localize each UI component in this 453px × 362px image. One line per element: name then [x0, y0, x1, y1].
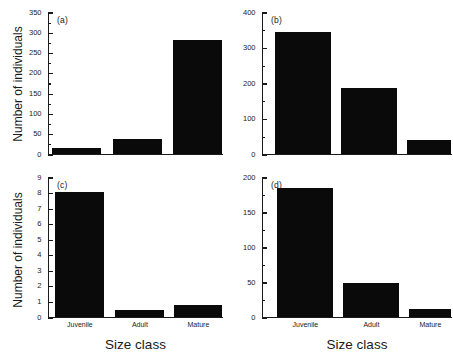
panel-b-bar-juvenile	[275, 32, 331, 153]
x-axis-title-right: Size class	[262, 337, 452, 352]
panel-b-bars	[263, 13, 452, 154]
panel-b-bar-adult	[341, 88, 397, 154]
panel-d-x-labels: Juvenile Adult Mature	[263, 318, 452, 332]
panel-d-bar-mature	[409, 309, 451, 317]
panel-d-bars	[263, 178, 452, 317]
panel-b: (b) 0 100 200 300 400	[262, 13, 452, 155]
panel-b-bar-mature	[407, 140, 451, 154]
panel-c-x-labels: Juvenile Adult Mature	[49, 318, 223, 332]
panel-c-bar-mature	[174, 305, 222, 317]
panel-c-xlabel-juvenile: Juvenile	[55, 321, 104, 328]
panel-c-xlabel-adult: Adult	[115, 321, 164, 328]
panel-d: (d) 0 50 100 150 200 Juvenile Adult Matu…	[262, 178, 452, 318]
panel-d-bar-juvenile	[277, 188, 333, 316]
panel-d-xlabel-adult: Adult	[343, 321, 399, 328]
y-axis-title-top-left: Number of individuals	[11, 9, 25, 159]
panel-a: (a) 0 50 100 150 200 250 300 350	[48, 13, 223, 155]
panel-a-bar-mature	[173, 40, 222, 154]
panel-c: (c) 0 1 2 3 4 5 6 7 8 9 Juvenile Adult M…	[48, 178, 223, 318]
figure-four-panel-bar-charts: Number of individuals Number of individu…	[0, 0, 453, 362]
panel-c-xlabel-mature: Mature	[174, 321, 222, 328]
panel-d-xlabel-mature: Mature	[409, 321, 451, 328]
x-axis-title-left: Size class	[48, 337, 223, 352]
panel-a-bar-adult	[113, 139, 162, 154]
panel-d-xlabel-juvenile: Juvenile	[277, 321, 333, 328]
panel-a-bars	[49, 13, 223, 154]
panel-d-bar-adult	[343, 283, 399, 316]
panel-c-bar-adult	[115, 310, 164, 316]
y-axis-title-bottom-left: Number of individuals	[11, 175, 25, 325]
panel-c-bars	[49, 178, 223, 317]
panel-c-bar-juvenile	[55, 192, 104, 317]
panel-a-bar-juvenile	[52, 148, 101, 154]
